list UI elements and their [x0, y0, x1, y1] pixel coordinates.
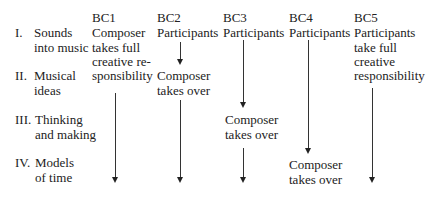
stage-label-line2: of time: [35, 171, 72, 185]
stage-label-line1: Sounds: [34, 26, 72, 40]
arrow-down-icon: [240, 102, 246, 108]
column-text: Participants: [289, 26, 350, 40]
stage-label-line2: and making: [35, 128, 96, 142]
stage-label-line2: ideas: [34, 84, 61, 98]
arrow-line: [180, 100, 181, 178]
column-text: Composer: [92, 26, 145, 40]
column-id: BC5: [354, 11, 378, 25]
column-id: BC2: [157, 11, 181, 25]
arrow-line: [243, 148, 244, 178]
arrow-down-icon: [369, 177, 375, 183]
column-text: responsibility: [354, 69, 425, 83]
arrow-down-icon: [112, 177, 118, 183]
arrow-down-icon: [305, 148, 311, 154]
arrow-line: [308, 40, 309, 148]
column-text: Participants: [157, 26, 218, 40]
stage-numeral: II.: [15, 69, 27, 83]
handover-text: takes over: [157, 84, 210, 98]
column-text: creative re-: [92, 55, 151, 69]
stage-label-line1: Thinking: [35, 113, 83, 127]
arrow-line: [372, 88, 373, 178]
arrow-down-icon: [240, 177, 246, 183]
arrow-line: [243, 40, 244, 102]
column-id: BC4: [289, 11, 313, 25]
handover-text: takes over: [225, 128, 278, 142]
stage-label-line1: Models: [35, 156, 74, 170]
column-id: BC1: [92, 11, 116, 25]
stage-label-line2: into music: [34, 41, 89, 55]
arrow-down-icon: [177, 59, 183, 65]
handover-text: Composer: [157, 69, 210, 83]
arrow-line: [115, 93, 116, 177]
handover-text: Composer: [225, 113, 278, 127]
column-text: creative: [354, 55, 395, 69]
stage-numeral: I.: [15, 26, 23, 40]
column-text: takes full: [92, 41, 140, 55]
stage-label-line1: Musical: [34, 69, 76, 83]
arrow-down-icon: [177, 177, 183, 183]
column-text: take full: [354, 41, 397, 55]
handover-text: Composer: [289, 158, 342, 172]
stage-numeral: IV.: [15, 156, 30, 170]
column-text: Participants: [354, 26, 415, 40]
arrow-line: [180, 42, 181, 60]
stage-numeral: III.: [15, 113, 31, 127]
column-id: BC3: [223, 11, 247, 25]
column-text: sponsibility: [92, 69, 153, 83]
handover-text: takes over: [289, 173, 342, 187]
column-text: Participants: [223, 26, 284, 40]
